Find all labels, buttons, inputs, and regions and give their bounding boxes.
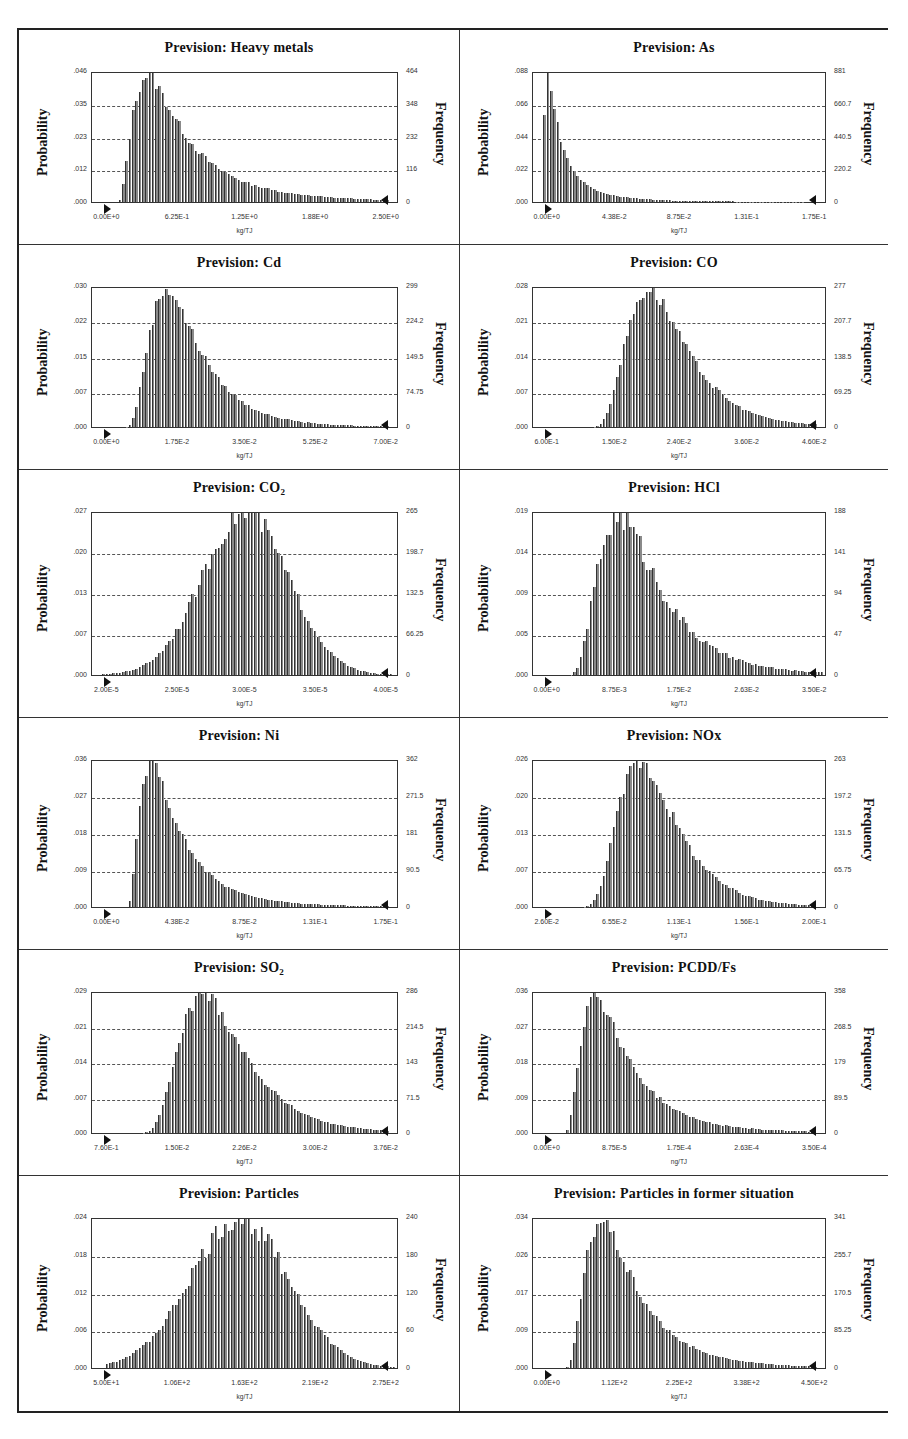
x-tick-label: 4.38E-2: [165, 918, 190, 925]
histogram-bar: [804, 672, 807, 675]
y2-axis-label: Frequency: [860, 102, 876, 166]
histogram-bar: [330, 905, 333, 907]
histogram-bar: [162, 296, 165, 427]
y-tick-label: .012: [61, 165, 87, 172]
histogram-bar: [699, 1350, 702, 1368]
histogram-bar: [771, 902, 774, 907]
histogram-bar: [109, 674, 112, 675]
upper-bound-marker[interactable]: [809, 1126, 816, 1136]
histogram-bar: [699, 641, 702, 675]
x-axis-label: kg/TJ: [237, 1158, 253, 1165]
histogram-bar: [248, 513, 251, 675]
histogram-bar: [218, 377, 221, 427]
y-tick-label: .027: [61, 507, 87, 514]
lower-bound-marker[interactable]: [104, 204, 111, 214]
lower-bound-marker[interactable]: [545, 909, 552, 919]
histogram-bar: [330, 197, 333, 202]
lower-bound-marker[interactable]: [104, 429, 111, 439]
histogram-bar: [165, 289, 168, 427]
histogram-bar: [254, 513, 257, 675]
y2-tick-label: 141: [834, 548, 864, 555]
histogram-bar: [149, 330, 152, 427]
chart-title: Prevision: Particles in former situation: [460, 1186, 888, 1202]
histogram-bar: [304, 1114, 307, 1133]
lower-bound-marker[interactable]: [545, 1370, 552, 1380]
histogram-bar: [152, 660, 155, 675]
lower-bound-marker[interactable]: [545, 429, 552, 439]
histogram-bar: [755, 1129, 758, 1133]
histogram-bar: [376, 426, 379, 427]
histogram-bar: [580, 657, 583, 675]
upper-bound-marker[interactable]: [381, 1126, 388, 1136]
y2-tick-label: 299: [406, 282, 436, 289]
upper-bound-marker[interactable]: [809, 668, 816, 678]
upper-bound-marker[interactable]: [381, 420, 388, 430]
y2-tick-label: 0: [406, 1129, 436, 1136]
histogram-bar: [324, 1122, 327, 1133]
histogram-bar: [224, 539, 227, 675]
histogram-bar: [751, 413, 754, 427]
x-tick-label: 2.00E-5: [94, 686, 119, 693]
histogram-bar: [794, 1366, 797, 1368]
upper-bound-marker[interactable]: [809, 900, 816, 910]
histogram-bar: [771, 419, 774, 427]
histogram-bar: [297, 594, 300, 675]
histogram-bar: [666, 200, 669, 202]
lower-bound-marker[interactable]: [545, 1135, 552, 1145]
histogram-bar: [768, 418, 771, 427]
histogram-bar: [185, 138, 188, 202]
x-tick-label: 1.75E-1: [802, 213, 827, 220]
histogram-bar: [695, 1119, 698, 1133]
histogram-bar: [633, 763, 636, 907]
lower-bound-marker[interactable]: [104, 1135, 111, 1145]
histogram-bar: [198, 585, 201, 675]
histogram-bar: [149, 761, 152, 907]
upper-bound-marker[interactable]: [381, 1361, 388, 1371]
lower-bound-marker[interactable]: [104, 1370, 111, 1380]
chart-panel-so2: Prevision: SO2.000.007.014.021.029071.51…: [19, 950, 460, 1176]
histogram-bar: [135, 839, 138, 907]
histogram-bar: [261, 532, 264, 675]
histogram-bar: [221, 884, 224, 907]
x-tick-label: 1.25E+0: [231, 213, 257, 220]
histogram-bar: [191, 1268, 194, 1368]
histogram-bar: [175, 300, 178, 427]
lower-bound-marker[interactable]: [104, 677, 111, 687]
histogram-bar: [718, 201, 721, 202]
histogram-bar: [241, 401, 244, 427]
x-tick-label: 1.06E+2: [164, 1379, 190, 1386]
histogram-bar: [142, 784, 145, 907]
histogram-bar: [258, 187, 261, 202]
upper-bound-marker[interactable]: [381, 900, 388, 910]
upper-bound-marker[interactable]: [809, 195, 816, 205]
upper-bound-marker[interactable]: [809, 1361, 816, 1371]
histogram-bar: [745, 1128, 748, 1133]
histogram-bar: [609, 1017, 612, 1133]
lower-bound-marker[interactable]: [104, 909, 111, 919]
upper-bound-marker[interactable]: [381, 195, 388, 205]
histogram-bar: [370, 199, 373, 202]
histogram-bar: [168, 808, 171, 907]
plot-area: [532, 512, 826, 676]
histogram-bar: [168, 295, 171, 427]
histogram-bar: [659, 793, 662, 907]
y-axis-label: Probability: [35, 805, 51, 872]
histogram-bar: [241, 1052, 244, 1133]
histogram-bar: [712, 1355, 715, 1368]
lower-bound-marker[interactable]: [545, 677, 552, 687]
histogram-bar: [755, 414, 758, 427]
histogram-bar: [373, 1365, 376, 1368]
histogram-bar: [761, 900, 764, 907]
histogram-bar: [761, 1363, 764, 1368]
histogram-bar: [619, 365, 622, 427]
histogram-bar: [590, 1242, 593, 1368]
upper-bound-marker[interactable]: [809, 420, 816, 430]
histogram-bar: [557, 122, 560, 202]
plot-area: [532, 992, 826, 1134]
histogram-bar: [333, 905, 336, 907]
x-axis-label: kg/TJ: [237, 1393, 253, 1400]
upper-bound-marker[interactable]: [381, 668, 388, 678]
histogram-bar: [287, 1279, 290, 1368]
x-tick-label: 1.56E-1: [734, 918, 759, 925]
lower-bound-marker[interactable]: [545, 204, 552, 214]
